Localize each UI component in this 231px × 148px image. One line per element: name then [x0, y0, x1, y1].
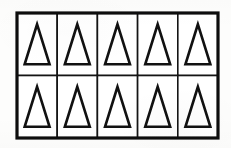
triangle-array-figure [0, 0, 231, 148]
figure-canvas [0, 0, 231, 148]
